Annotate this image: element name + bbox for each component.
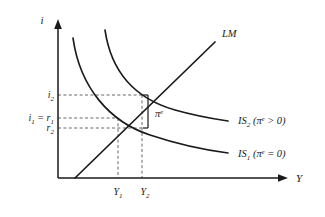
curve-is2 (105, 30, 228, 121)
y-tick-label-i2: i2 (48, 89, 55, 103)
bracket-label-pi-e: πe (155, 108, 163, 120)
curve-label-is2: IS2 (πe > 0) (237, 115, 286, 129)
is2-relation: > 0) (265, 115, 287, 127)
is1-relation: = 0) (265, 148, 287, 160)
curve-label-lm: LM (221, 28, 238, 39)
x-tick-y1-sub: 1 (119, 192, 123, 200)
curve-label-is1: IS1 (πe = 0) (237, 148, 286, 162)
y-tick-r1-sub: 1 (51, 118, 55, 126)
x-tick-label-y1: Y1 (113, 186, 122, 200)
x-axis-label: Y (296, 172, 304, 184)
bracket-pi-superscript: e (160, 108, 163, 115)
x-tick-label-y2: Y2 (140, 186, 150, 200)
y-tick-i2-sub: 2 (51, 95, 55, 103)
curve-lm (75, 42, 215, 178)
x-axis-arrowhead (278, 174, 288, 182)
y-axis-arrowhead (54, 19, 62, 29)
guide-lines (58, 95, 142, 178)
is-lm-diagram: i Y i2 i1 = r1 r2 Y1 Y2 LM IS2 (πe > 0) … (0, 0, 325, 217)
x-tick-y2-sub: 2 (146, 192, 150, 200)
curve-is1 (73, 38, 228, 153)
y-tick-r2-sub: 2 (51, 128, 55, 136)
y-axis-label: i (40, 14, 43, 26)
y-tick-equals: = (35, 112, 47, 123)
